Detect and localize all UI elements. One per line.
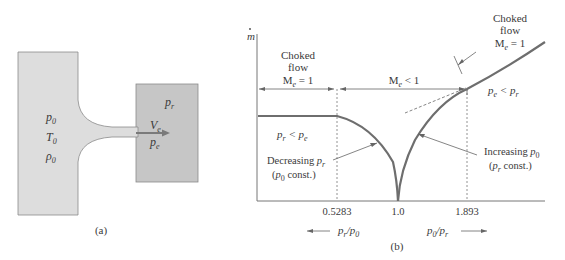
middle-region-mach: Me < 1 <box>389 74 420 89</box>
decreasing-pointer <box>333 143 377 160</box>
panel-b: m Choked flow Me = 1 Me < 1 Choked flow <box>247 12 545 253</box>
caption-a: (a) <box>95 224 108 237</box>
increasing-label: Increasing p0 <box>484 146 540 160</box>
tick-1: 1.0 <box>391 206 404 217</box>
decreasing-sublabel: (p0 const.) <box>272 169 316 183</box>
y-axis-label: m <box>247 30 255 42</box>
decreasing-label: Decreasing pr <box>267 155 326 169</box>
left-condition: pr < pe <box>276 128 308 143</box>
right-arrow-icon <box>481 229 487 233</box>
reservoir-tank <box>18 52 138 215</box>
right-condition: pe < pr <box>487 84 520 99</box>
increasing-sublabel: (pr const.) <box>489 160 532 174</box>
tick-05283: 0.5283 <box>323 206 352 217</box>
right-region-mach: Me = 1 <box>495 37 526 52</box>
increasing-pointer <box>418 134 477 155</box>
x-label-left: pr/p0 <box>337 224 359 239</box>
tick-1893: 1.893 <box>455 206 479 217</box>
caption-b: (b) <box>391 240 404 253</box>
increasing-p0-curve <box>398 42 545 201</box>
mdot-dot <box>249 28 251 30</box>
right-region-title-2: flow <box>500 24 520 36</box>
left-arrow-icon <box>307 229 313 233</box>
x-label-right: p0/pr <box>426 224 449 239</box>
left-region-title-1: Choked <box>281 49 316 61</box>
right-region-title-1: Choked <box>493 12 528 24</box>
panel-a: p0 T0 ρ0 pr Ve pe (a) <box>18 52 198 237</box>
left-region-title-2: flow <box>288 61 308 73</box>
nozzle-flow-figure: p0 T0 ρ0 pr Ve pe (a) m <box>0 0 565 260</box>
left-region-mach: Me = 1 <box>283 74 314 89</box>
tangent-line <box>405 88 466 113</box>
